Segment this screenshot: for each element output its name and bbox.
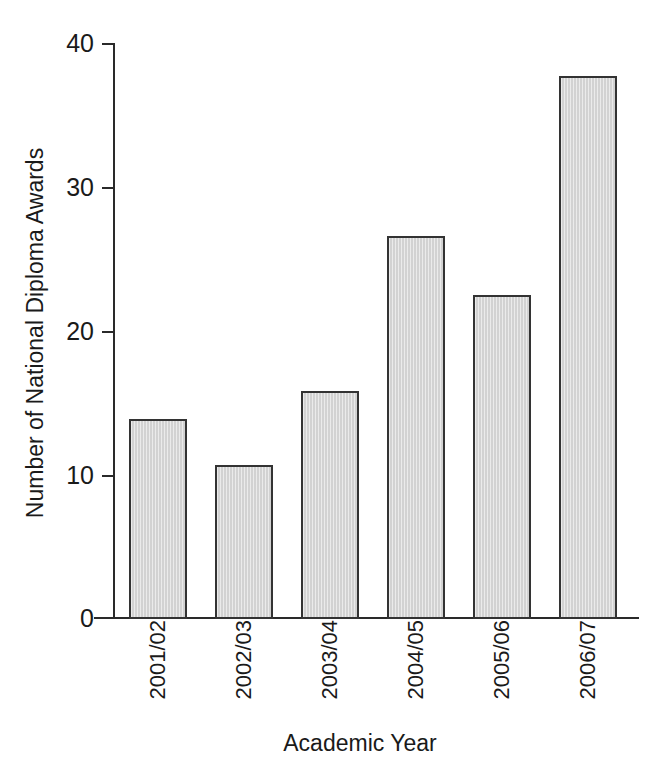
y-tick-label-30: 30	[50, 175, 94, 200]
y-axis-tick-labels: 40 30 20 10 0	[50, 0, 94, 767]
x-tick-label-2006-07: 2006/07	[577, 620, 599, 700]
x-tick-label-2002-03: 2002/03	[233, 620, 255, 700]
y-tick-mark-10	[102, 475, 113, 477]
y-tick-label-10: 10	[50, 463, 94, 488]
x-axis-title-text: Academic Year	[225, 730, 436, 757]
bar-2002-03	[215, 465, 273, 619]
y-axis-title-text: Number of National Diploma Awards	[22, 147, 49, 517]
y-tick-mark-20	[102, 331, 113, 333]
x-tick-label-2003-04: 2003/04	[319, 620, 341, 700]
x-tick-label-2004-05: 2004/05	[405, 620, 427, 700]
x-tick-label-2005-06: 2005/06	[491, 620, 513, 700]
x-tick-2002-03: 2002/03	[215, 620, 273, 728]
x-tick-2004-05: 2004/05	[387, 620, 445, 728]
bar-2003-04	[301, 391, 359, 619]
y-tick-mark-30	[102, 187, 113, 189]
x-axis-tick-labels: 2001/02 2002/03 2003/04 2004/05 2005/06 …	[115, 620, 639, 728]
bar-2004-05	[387, 236, 445, 619]
y-tick-label-20: 20	[50, 319, 94, 344]
bar-2006-07	[559, 76, 617, 619]
x-tick-2001-02: 2001/02	[129, 620, 187, 728]
plot-area	[115, 43, 639, 619]
x-tick-label-2001-02: 2001/02	[147, 620, 169, 700]
y-tick-label-0: 0	[50, 606, 94, 631]
x-tick-2003-04: 2003/04	[301, 620, 359, 728]
bar-chart-figure: Number of National Diploma Awards 40 30 …	[0, 0, 662, 767]
x-tick-2005-06: 2005/06	[473, 620, 531, 728]
y-tick-label-40: 40	[50, 31, 94, 56]
x-axis-title: Academic Year	[0, 730, 662, 757]
bar-2001-02	[129, 419, 187, 619]
y-tick-mark-40	[102, 43, 113, 45]
x-tick-2006-07: 2006/07	[559, 620, 617, 728]
bar-2005-06	[473, 295, 531, 619]
